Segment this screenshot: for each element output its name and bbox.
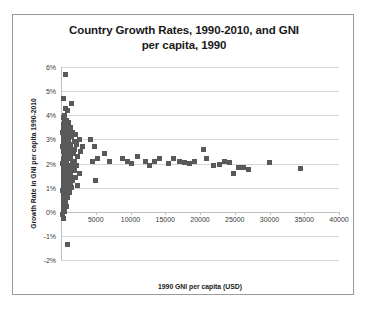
- y-gridline: [61, 115, 339, 116]
- x-tick-label: 10000: [121, 216, 140, 223]
- x-axis-title-label: 1990 GNI per capita (USD): [158, 283, 242, 290]
- x-tick-mark: [270, 212, 271, 215]
- x-tick-label: 35000: [295, 216, 314, 223]
- x-tick-label: 20000: [190, 216, 209, 223]
- x-tick-mark: [304, 212, 305, 215]
- y-tick-label: 6%: [46, 64, 56, 71]
- x-tick-label: 30000: [260, 216, 279, 223]
- y-tick-label: 4%: [46, 112, 56, 119]
- data-point: [75, 183, 80, 188]
- data-point: [129, 161, 134, 166]
- data-point: [102, 151, 107, 156]
- y-axis-title-label: Growth Rate in GNI per capita 1990-2010: [30, 98, 37, 229]
- data-point: [147, 163, 152, 168]
- data-point: [201, 147, 206, 152]
- data-point: [298, 166, 303, 171]
- y-tick-label: -1%: [44, 232, 56, 239]
- data-point: [241, 165, 246, 170]
- data-point: [93, 178, 98, 183]
- data-point: [166, 161, 171, 166]
- data-point: [61, 96, 66, 101]
- data-point: [69, 101, 74, 106]
- data-point: [135, 154, 140, 159]
- data-point: [88, 137, 93, 142]
- y-gridline: [61, 67, 339, 68]
- data-point: [231, 171, 236, 176]
- data-point: [92, 144, 97, 149]
- data-point: [61, 216, 66, 221]
- data-point: [157, 156, 162, 161]
- chart-title-line-2: per capita, 1990: [13, 38, 355, 53]
- x-axis-title: 1990 GNI per capita (USD): [61, 283, 339, 290]
- x-tick-label: 25000: [225, 216, 244, 223]
- data-point: [267, 160, 272, 165]
- y-tick-label: 1%: [46, 184, 56, 191]
- y-gridline: [61, 91, 339, 92]
- data-point: [90, 159, 95, 164]
- x-tick-mark: [235, 212, 236, 215]
- y-gridline: [61, 260, 339, 261]
- x-tick-label: 5000: [88, 216, 104, 223]
- x-tick-mark: [339, 212, 340, 215]
- y-axis-title: Growth Rate in GNI per capita 1990-2010: [27, 67, 39, 260]
- y-tick-label: 0%: [46, 208, 56, 215]
- data-point: [204, 156, 209, 161]
- y-tick-label: 3%: [46, 136, 56, 143]
- chart-title-line-1: Country Growth Rates, 1990-2010, and GNI: [13, 23, 355, 38]
- y-gridline: [61, 236, 339, 237]
- chart-frame: Country Growth Rates, 1990-2010, and GNI…: [12, 14, 354, 295]
- y-gridline: [61, 164, 339, 165]
- y-tick-label: -2%: [44, 257, 56, 264]
- y-gridline: [61, 188, 339, 189]
- data-point: [211, 163, 216, 168]
- data-point: [65, 242, 70, 247]
- data-point: [246, 167, 251, 172]
- x-tick-label: 40000: [329, 216, 348, 223]
- data-point: [107, 159, 112, 164]
- y-gridline: [61, 139, 339, 140]
- x-tick-mark: [96, 212, 97, 215]
- x-tick-mark: [200, 212, 201, 215]
- x-tick-mark: [165, 212, 166, 215]
- x-tick-label: 15000: [156, 216, 175, 223]
- y-tick-label: 5%: [46, 88, 56, 95]
- data-point: [227, 160, 232, 165]
- data-point: [63, 72, 68, 77]
- plot-area: 6%5%4%3%2%1%0%-1%-2%50001000015000200002…: [61, 67, 339, 260]
- data-point: [95, 156, 100, 161]
- data-point: [192, 159, 197, 164]
- data-point: [177, 159, 182, 164]
- x-tick-mark: [131, 212, 132, 215]
- y-tick-label: 2%: [46, 160, 56, 167]
- data-point: [171, 156, 176, 161]
- chart-title: Country Growth Rates, 1990-2010, and GNI…: [13, 23, 355, 53]
